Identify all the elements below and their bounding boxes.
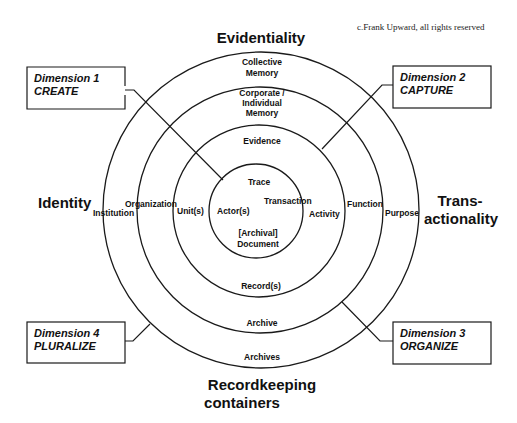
inner-left-label: Actor(s): [217, 206, 250, 216]
connector-dimension-2: [322, 85, 395, 149]
dimension-3-title: Dimension 3: [400, 327, 465, 339]
outer-top-line1: Collective: [242, 57, 282, 67]
third-bottom-label: Archive: [246, 318, 277, 328]
inner-bottom-line1: [Archival]: [238, 228, 277, 238]
axis-transactionality-line1: Trans-: [437, 192, 482, 209]
inner-top-label: Trace: [248, 177, 270, 187]
inner-right-label: Transaction: [264, 196, 312, 206]
third-top-line2: Individual: [242, 98, 282, 108]
third-top-line1: Corporate /: [239, 88, 285, 98]
dimension-1-name: CREATE: [34, 85, 79, 97]
dimension-1-title: Dimension 1: [34, 72, 99, 84]
connector-dimension-1: [116, 90, 223, 180]
inner-bottom-line2: Document: [237, 239, 279, 249]
second-bottom-label: Record(s): [241, 281, 281, 291]
third-left-label: Organization: [125, 199, 177, 209]
outer-bottom-label: Archives: [244, 352, 280, 362]
second-left-label: Unit(s): [177, 206, 204, 216]
dimension-2-title: Dimension 2: [400, 71, 465, 83]
axis-evidentiality: Evidentiality: [217, 29, 306, 46]
outer-right-label: Purpose: [385, 208, 419, 218]
copyright-notice: c.Frank Upward, all rights reserved: [357, 22, 485, 32]
records-continuum-diagram: Dimension 1 CREATE Dimension 2 CAPTURE D…: [0, 0, 517, 423]
second-top-label: Evidence: [243, 136, 281, 146]
axis-transactionality-line2: actionality: [424, 210, 499, 227]
diagram-svg: Dimension 1 CREATE Dimension 2 CAPTURE D…: [0, 0, 517, 423]
axis-recordkeeping-line2: containers: [204, 394, 280, 411]
dimension-connectors: [116, 85, 395, 341]
outer-left-label: Institution: [93, 208, 134, 218]
third-right-label: Function: [347, 199, 383, 209]
dimension-2-name: CAPTURE: [400, 84, 454, 96]
second-right-label: Activity: [309, 209, 340, 219]
axis-recordkeeping-line1: Recordkeeping: [208, 376, 316, 393]
third-top-line3: Memory: [246, 108, 279, 118]
dimension-3-name: ORGANIZE: [400, 340, 459, 352]
axis-identity: Identity: [38, 194, 92, 211]
dimension-4-name: PLURALIZE: [34, 340, 96, 352]
connector-dimension-4: [124, 324, 150, 341]
outer-top-line2: Memory: [246, 68, 279, 78]
dimension-4-title: Dimension 4: [34, 327, 99, 339]
